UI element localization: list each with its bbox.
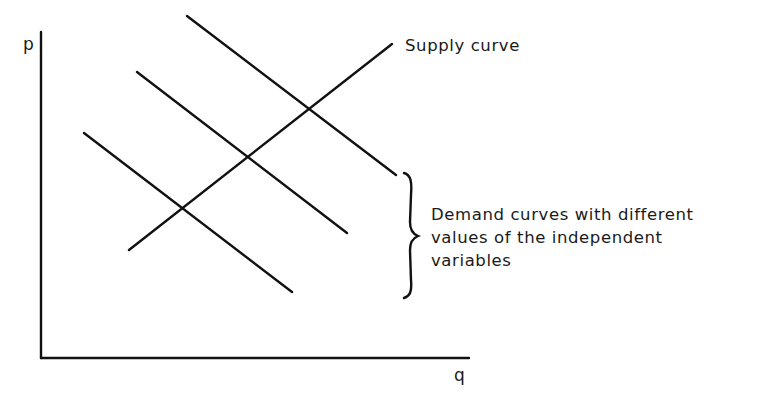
supply-curve-label: Supply curve xyxy=(405,36,520,55)
demand-annotation-line-2: values of the independent xyxy=(431,228,663,247)
demand-annotation-line-1: Demand curves with different xyxy=(431,205,694,224)
demand-brace-icon xyxy=(404,173,418,298)
demand-annotation-line-3: variables xyxy=(431,251,512,270)
supply-demand-diagram: p q Supply curve Demand curves with diff… xyxy=(0,0,757,397)
demand-curve-2 xyxy=(137,72,347,233)
demand-curve-1 xyxy=(84,133,292,292)
demand-curve-3 xyxy=(187,16,396,175)
supply-curve xyxy=(129,44,392,250)
x-axis-label: q xyxy=(454,365,465,385)
y-axis-label: p xyxy=(23,34,34,54)
